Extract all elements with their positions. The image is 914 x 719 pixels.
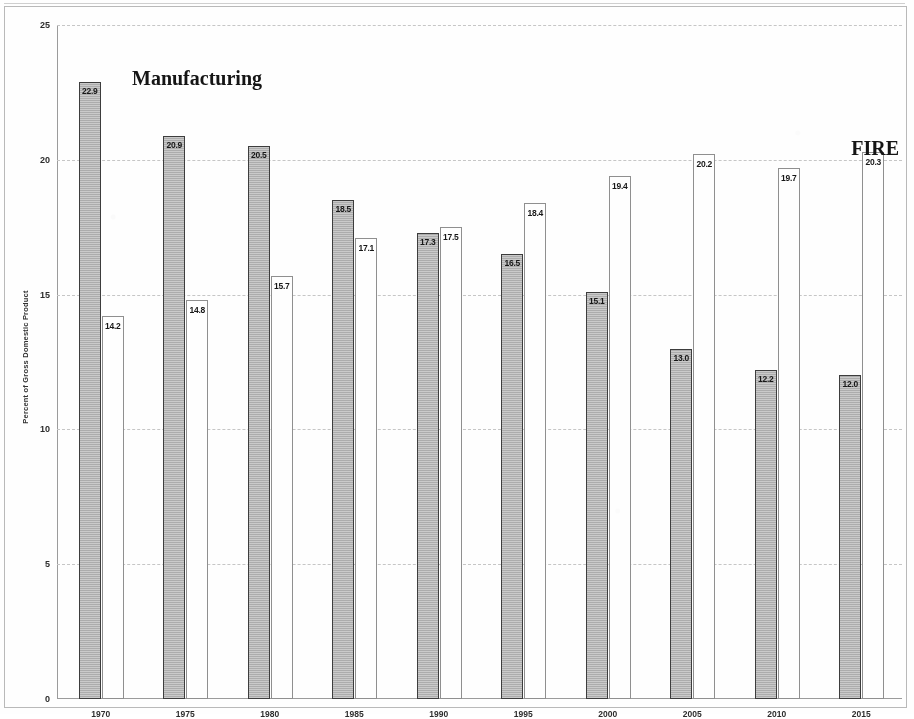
x-axis-tick-label: 1970: [91, 709, 110, 719]
plot-area: 0510152025 22.914.2197020.914.8197520.51…: [57, 25, 902, 699]
manufacturing-bar[interactable]: 20.5: [248, 146, 270, 699]
x-axis-tick-label: 2005: [683, 709, 702, 719]
bar-value-label: 17.3: [420, 237, 436, 247]
bar-value-label: 22.9: [82, 86, 98, 96]
bar-group: 22.914.21970: [79, 25, 124, 699]
fire-bar[interactable]: 19.7: [778, 168, 800, 699]
y-axis-line: [57, 25, 58, 699]
manufacturing-bar[interactable]: 12.2: [755, 370, 777, 699]
fire-bar[interactable]: 19.4: [609, 176, 631, 699]
bar-value-label: 20.5: [251, 150, 267, 160]
bar-value-label: 13.0: [673, 353, 689, 363]
bar-group: 12.219.72010: [755, 25, 800, 699]
y-axis-tick-label: 20: [40, 155, 50, 165]
bar-group: 17.317.51990: [417, 25, 462, 699]
y-axis-tick-label: 10: [40, 424, 50, 434]
fire-bar[interactable]: 17.1: [355, 238, 377, 699]
bar-value-label: 15.7: [274, 281, 290, 291]
manufacturing-bar[interactable]: 17.3: [417, 233, 439, 699]
fire-bar[interactable]: 17.5: [440, 227, 462, 699]
bar-value-label: 18.5: [335, 204, 351, 214]
bar-value-label: 14.2: [105, 321, 121, 331]
manufacturing-series-title: Manufacturing: [132, 67, 262, 90]
bar-value-label: 17.5: [443, 232, 459, 242]
bar-value-label: 20.2: [696, 159, 712, 169]
bar-value-label: 19.7: [781, 173, 797, 183]
bar-value-label: 12.0: [842, 379, 858, 389]
bar-value-label: 18.4: [527, 208, 543, 218]
x-axis-tick-label: 1975: [176, 709, 195, 719]
x-axis-tick-label: 2010: [767, 709, 786, 719]
bar-value-label: 14.8: [189, 305, 205, 315]
fire-bar[interactable]: 15.7: [271, 276, 293, 699]
bar-group: 20.515.71980: [248, 25, 293, 699]
x-axis-tick-label: 2015: [852, 709, 871, 719]
x-axis-tick-label: 2000: [598, 709, 617, 719]
x-axis-tick-label: 1980: [260, 709, 279, 719]
fire-series-title: FIRE: [851, 137, 899, 160]
y-axis-tick-label: 0: [45, 694, 50, 704]
manufacturing-bar[interactable]: 18.5: [332, 200, 354, 699]
manufacturing-bar[interactable]: 20.9: [163, 136, 185, 699]
fire-bar[interactable]: 18.4: [524, 203, 546, 699]
y-axis-tick-label: 15: [40, 290, 50, 300]
fire-bar[interactable]: 14.8: [186, 300, 208, 699]
bar-value-label: 12.2: [758, 374, 774, 384]
bar-group: 13.020.22005: [670, 25, 715, 699]
bar-group: 16.518.41995: [501, 25, 546, 699]
y-axis-tick-label: 5: [45, 559, 50, 569]
bar-value-label: 16.5: [504, 258, 520, 268]
manufacturing-bar[interactable]: 13.0: [670, 349, 692, 699]
manufacturing-bar[interactable]: 12.0: [839, 375, 861, 699]
x-axis-tick-label: 1995: [514, 709, 533, 719]
bar-group: 20.914.81975: [163, 25, 208, 699]
fire-bar[interactable]: 20.3: [862, 152, 884, 699]
fire-bar[interactable]: 20.2: [693, 154, 715, 699]
x-axis-tick-label: 1985: [345, 709, 364, 719]
x-axis-tick-label: 1990: [429, 709, 448, 719]
bar-group: 15.119.42000: [586, 25, 631, 699]
manufacturing-bar[interactable]: 22.9: [79, 82, 101, 699]
bar-group: 12.020.32015: [839, 25, 884, 699]
fire-bar[interactable]: 14.2: [102, 316, 124, 699]
bar-value-label: 19.4: [612, 181, 628, 191]
y-axis-title: Percent of Gross Domestic Product: [21, 290, 30, 423]
manufacturing-bar[interactable]: 15.1: [586, 292, 608, 699]
manufacturing-bar[interactable]: 16.5: [501, 254, 523, 699]
y-axis-tick-label: 25: [40, 20, 50, 30]
bar-group: 18.517.11985: [332, 25, 377, 699]
bar-value-label: 15.1: [589, 296, 605, 306]
bar-value-label: 20.9: [166, 140, 182, 150]
chart-frame: Percent of Gross Domestic Product 051015…: [4, 6, 907, 708]
bar-value-label: 17.1: [358, 243, 374, 253]
